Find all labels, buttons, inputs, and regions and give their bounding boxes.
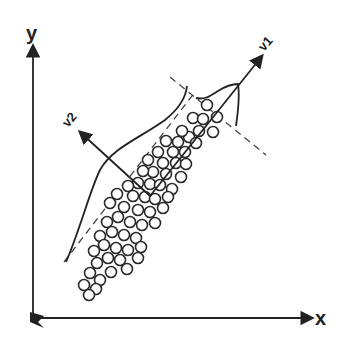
v1-arrow — [150, 56, 262, 196]
x-axis-label: x — [315, 307, 326, 329]
v1-label: v1 — [255, 33, 276, 54]
pca-diagram: y x — [0, 0, 345, 349]
y-axis-label: y — [26, 22, 38, 44]
v2-label: v2 — [59, 109, 80, 130]
origin-arrow-icon — [30, 312, 44, 328]
